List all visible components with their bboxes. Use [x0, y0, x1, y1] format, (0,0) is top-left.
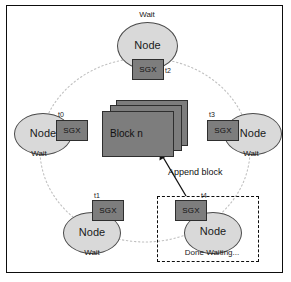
node-top-sgx-box[interactable]: SGX — [132, 59, 164, 80]
node-right-sgx-box[interactable]: SGX — [207, 120, 239, 141]
node-right-status: Wait — [226, 149, 276, 158]
block-stack-label: Block n — [110, 128, 143, 139]
node-right[interactable]: Node SGX t3 Wait — [200, 104, 282, 162]
node-bottom-right-sgx-box[interactable]: SGX — [175, 200, 207, 221]
node-bottom-right[interactable]: Node SGX t4 Done Waiting... — [170, 192, 250, 260]
node-bottom-right-status: Done Waiting... — [172, 248, 252, 257]
node-bottom-right-time-label: t4 — [201, 192, 207, 199]
node-bottom-left-time-label: t1 — [94, 192, 100, 199]
node-left-time-label: t0 — [58, 111, 64, 118]
node-top-time-label: t2 — [165, 67, 171, 74]
node-left-sgx-box[interactable]: SGX — [56, 120, 88, 141]
node-bottom-left-sgx-box[interactable]: SGX — [92, 200, 124, 221]
node-bottom-left-label: Node — [63, 226, 121, 238]
node-left[interactable]: Node SGX t0 Wait — [14, 104, 96, 162]
append-block-label: Append block — [168, 167, 223, 177]
node-bottom-left[interactable]: Node SGX t1 Wait — [63, 194, 143, 260]
block-stack[interactable]: Block n — [100, 100, 196, 162]
node-right-time-label: t3 — [209, 111, 215, 118]
node-bottom-right-label: Node — [184, 225, 242, 237]
node-top-status: Wait — [112, 10, 182, 19]
node-bottom-left-status: Wait — [67, 248, 117, 257]
node-top-label: Node — [117, 39, 178, 51]
node-top[interactable]: Wait Node SGX t2 — [112, 10, 182, 88]
node-left-status: Wait — [14, 149, 64, 158]
